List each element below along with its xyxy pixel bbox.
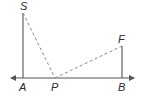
label-f: F xyxy=(118,33,126,45)
label-p: P xyxy=(51,81,59,93)
segment-pf-dashed xyxy=(55,46,122,78)
segment-sp-dashed xyxy=(23,13,55,78)
label-s: S xyxy=(20,0,28,12)
label-b: B xyxy=(118,81,125,93)
label-a: A xyxy=(18,81,26,93)
diagram-canvas: S F A P B xyxy=(0,0,141,97)
